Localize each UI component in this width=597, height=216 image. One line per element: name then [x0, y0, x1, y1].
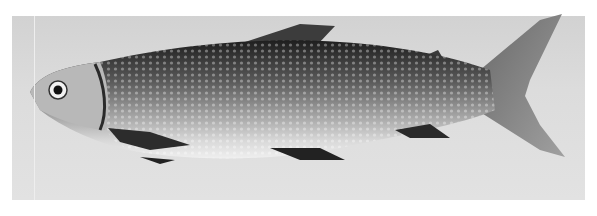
caudal-fin: [480, 14, 565, 157]
fish-head: [30, 62, 108, 130]
fish-illustration: [0, 0, 597, 216]
fish-photograph: [12, 16, 585, 200]
photo-crease: [34, 16, 35, 200]
